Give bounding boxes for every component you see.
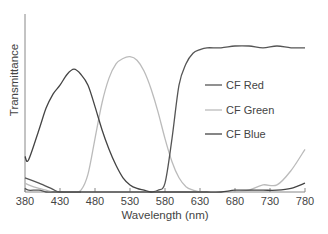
x-tick-label: 430 — [51, 195, 69, 207]
series-lines — [25, 46, 305, 192]
legend-item-cf-blue: CF Blue — [205, 128, 266, 140]
y-axis-title: Transmittance — [8, 44, 20, 116]
x-tick-label: 480 — [86, 195, 104, 207]
transmittance-chart: 380430480530580630680730780 Wavelength (… — [0, 0, 328, 234]
legend: CF Red CF Green CF Blue — [205, 79, 274, 140]
series-line-cf-red — [25, 46, 305, 192]
legend-label: CF Red — [226, 79, 264, 91]
x-tick-label: 630 — [191, 195, 209, 207]
x-axis-title: Wavelength (nm) — [121, 209, 208, 221]
x-tick-label: 380 — [16, 195, 34, 207]
x-tick-label: 730 — [261, 195, 279, 207]
x-axis-tick-labels: 380430480530580630680730780 — [16, 195, 314, 207]
chart-canvas: 380430480530580630680730780 Wavelength (… — [0, 0, 328, 234]
x-tick-label: 680 — [226, 195, 244, 207]
legend-label: CF Green — [226, 104, 274, 116]
legend-label: CF Blue — [226, 128, 266, 140]
legend-item-cf-red: CF Red — [205, 79, 264, 91]
x-tick-label: 530 — [121, 195, 139, 207]
series-line-cf-green — [25, 57, 305, 192]
x-tick-label: 780 — [296, 195, 314, 207]
x-tick-label: 580 — [156, 195, 174, 207]
legend-item-cf-green: CF Green — [205, 104, 274, 116]
